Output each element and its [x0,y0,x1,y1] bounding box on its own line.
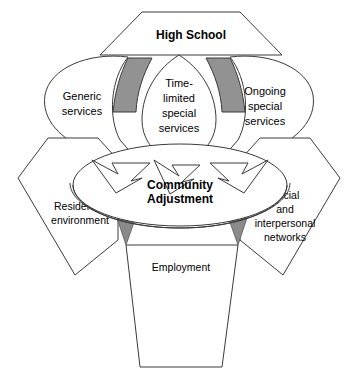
social-line2: and [276,203,294,215]
diagram-canvas: High School Generic services Ongoing spe… [0,0,354,379]
generic-services-line1: Generic [63,90,102,102]
time-limited-line4: services [159,122,200,134]
time-limited-line3: special [162,107,196,119]
ongoing-services-line2: special [248,100,282,112]
social-line3: interpersonal [255,217,316,229]
generic-services-line2: services [62,105,103,117]
time-limited-line2: limited [163,92,195,104]
residential-line2: environment [51,214,109,226]
high-school-label: High School [156,28,226,42]
community-adjustment-line1: Community [147,178,213,192]
ongoing-services-line1: Ongoing [244,85,286,97]
transition-model-diagram: High School Generic services Ongoing spe… [0,0,354,379]
community-adjustment-line2: Adjustment [147,192,213,206]
ongoing-services-line3: services [245,115,286,127]
time-limited-line1: Time- [165,77,193,89]
social-line4: networks [264,231,306,243]
employment-label: Employment [152,261,210,273]
